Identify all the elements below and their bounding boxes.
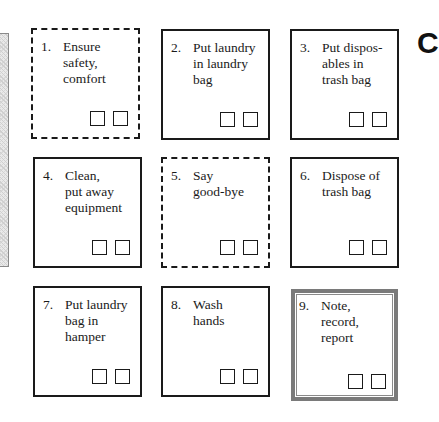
step-card-1: 1. Ensure safety, comfort bbox=[31, 28, 140, 139]
checkbox-group bbox=[90, 111, 128, 126]
step-number: 2. bbox=[171, 40, 193, 88]
step-number: 7. bbox=[43, 297, 65, 345]
step-label: Clean, put away equipment bbox=[65, 168, 122, 216]
step-label: Wash hands bbox=[193, 297, 225, 329]
step-card-5: 5. Say good-bye bbox=[161, 157, 270, 268]
checkbox-1[interactable] bbox=[220, 240, 235, 255]
checkbox-group bbox=[220, 240, 258, 255]
checkbox-1[interactable] bbox=[92, 240, 107, 255]
checkbox-2[interactable] bbox=[243, 240, 258, 255]
checkbox-2[interactable] bbox=[115, 369, 130, 384]
step-label: Dispose of trash bag bbox=[322, 168, 380, 200]
checkbox-1[interactable] bbox=[220, 112, 235, 127]
checkbox-1[interactable] bbox=[92, 369, 107, 384]
checkbox-group bbox=[349, 240, 387, 255]
checkbox-2[interactable] bbox=[372, 112, 387, 127]
step-label: Say good-bye bbox=[193, 168, 244, 200]
step-card-6: 6. Dispose of trash bag bbox=[290, 157, 399, 268]
step-number: 8. bbox=[171, 297, 193, 329]
step-label: Put laundry bag in hamper bbox=[65, 297, 128, 345]
step-card-2: 2. Put laundry in laundry bag bbox=[161, 29, 270, 140]
step-number: 4. bbox=[43, 168, 65, 216]
step-number: 5. bbox=[171, 168, 193, 200]
step-card-7: 7. Put laundry bag in hamper bbox=[33, 286, 142, 397]
step-card-9: 9. Note, record, report bbox=[291, 289, 398, 401]
step-label: Put laundry in laundry bag bbox=[193, 40, 256, 88]
checkbox-1[interactable] bbox=[349, 240, 364, 255]
checkbox-group bbox=[220, 112, 258, 127]
step-number: 3. bbox=[300, 40, 322, 88]
checkbox-2[interactable] bbox=[371, 374, 386, 389]
checkbox-group bbox=[92, 240, 130, 255]
step-label: Put dispos- ables in trash bag bbox=[322, 40, 382, 88]
step-label: Ensure safety, comfort bbox=[63, 39, 106, 87]
step-label: Note, record, report bbox=[321, 298, 390, 346]
step-card-4: 4. Clean, put away equipment bbox=[33, 157, 142, 268]
checkbox-2[interactable] bbox=[113, 111, 128, 126]
checkbox-group bbox=[349, 112, 387, 127]
step-number: 6. bbox=[300, 168, 322, 200]
cut-off-heading-glyph: C bbox=[417, 28, 439, 58]
checkbox-group bbox=[348, 374, 386, 389]
checkbox-group bbox=[92, 369, 130, 384]
side-panel-hatched bbox=[0, 33, 9, 267]
checkbox-1[interactable] bbox=[349, 112, 364, 127]
checkbox-group bbox=[220, 369, 258, 384]
checkbox-1[interactable] bbox=[348, 374, 363, 389]
checkbox-2[interactable] bbox=[372, 240, 387, 255]
step-card-8: 8. Wash hands bbox=[161, 286, 270, 397]
checkbox-2[interactable] bbox=[115, 240, 130, 255]
checkbox-1[interactable] bbox=[220, 369, 235, 384]
checkbox-2[interactable] bbox=[243, 112, 258, 127]
step-card-3: 3. Put dispos- ables in trash bag bbox=[290, 29, 399, 140]
checkbox-1[interactable] bbox=[90, 111, 105, 126]
step-number: 9. bbox=[299, 298, 321, 346]
checkbox-2[interactable] bbox=[243, 369, 258, 384]
step-number: 1. bbox=[41, 39, 63, 87]
